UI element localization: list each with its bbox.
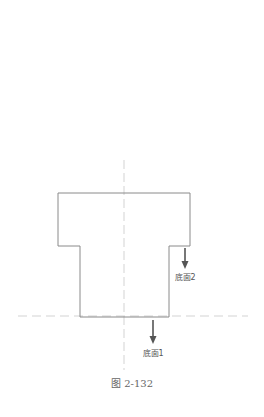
figure-caption: 图 2-132	[0, 375, 264, 390]
arrow-down-icon-bottom-face-1	[150, 320, 157, 344]
diagram-canvas	[0, 0, 264, 417]
arrow-down-icon-bottom-face-2	[182, 248, 189, 269]
bottom-face-2-label: 底面2	[175, 271, 195, 282]
bottom-face-1-label: 底面1	[143, 347, 163, 358]
